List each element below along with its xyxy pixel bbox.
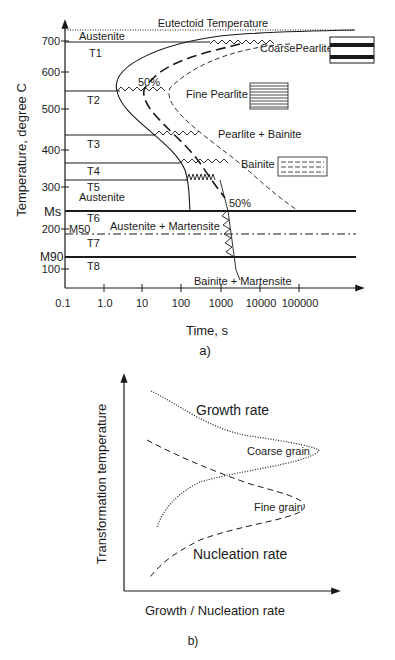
- t7-label: T7: [87, 237, 100, 249]
- austenite-mid-label: Austenite: [79, 191, 125, 203]
- m90-axis-label: M90: [40, 250, 64, 264]
- eutectoid-label: Eutectoid Temperature: [158, 17, 268, 29]
- y-tick-300: 300: [42, 181, 60, 193]
- y-tick-200: 200: [42, 223, 60, 235]
- x-tick-10000: 10000: [246, 297, 277, 309]
- isotherm-lines: [65, 42, 210, 180]
- y-tick-600: 600: [42, 66, 60, 78]
- fifty-percent-label-a: 50%: [138, 76, 160, 88]
- ms-axis-label: Ms: [44, 204, 62, 219]
- y-tick-100: 100: [42, 263, 60, 275]
- y-tick-700: 700: [42, 35, 60, 47]
- panel-label-a: a): [199, 343, 211, 358]
- t2-label: T2: [87, 94, 100, 106]
- y-tick-400: 400: [42, 144, 60, 156]
- y-tick-500: 500: [42, 103, 60, 115]
- pearlite-bainite-label: Pearlite + Bainite: [218, 128, 301, 140]
- x-axis-label-b: Growth / Nucleation rate: [145, 603, 285, 618]
- fine-pearlite-icon: [250, 83, 288, 109]
- austenite-martensite-label: Austenite + Martensite: [110, 220, 220, 232]
- coarse-pearlite-icon: [330, 37, 374, 63]
- x-tick-0.1: 0.1: [55, 297, 70, 309]
- fine-grain-label: Fine grain: [254, 501, 303, 513]
- x-tick-100000: 100000: [282, 297, 319, 309]
- t3-label: T3: [87, 138, 100, 150]
- x-axis-label-a: Time, s: [186, 323, 229, 338]
- fine-pearlite-label: Fine Pearlite: [186, 88, 248, 100]
- fifty-percent-curve: [144, 44, 240, 198]
- panel-label-b: b): [188, 634, 199, 648]
- figure-canvas: 700 600 500 400 300 200 100 Ms M90 0.1 1…: [0, 0, 395, 660]
- growth-rate-label: Growth rate: [196, 402, 269, 418]
- austenite-top-label: Austenite: [79, 30, 125, 42]
- start-curve: [116, 30, 355, 211]
- x-tick-1000: 1000: [209, 297, 233, 309]
- panel-a-ttt-diagram: 700 600 500 400 300 200 100 Ms M90 0.1 1…: [14, 17, 374, 358]
- x-tick-10: 10: [136, 297, 148, 309]
- bainite-icon: [278, 157, 327, 176]
- coarse-pearlite-label: CoarsePearlite: [260, 42, 333, 54]
- y-axis-label-b: Transformation temperature: [94, 404, 109, 565]
- m50-label: M50: [69, 223, 90, 235]
- nucleation-rate-label: Nucleation rate: [193, 546, 287, 562]
- t1-label: T1: [89, 47, 102, 59]
- panel-b-rate-diagram: Growth rate Coarse grain Fine grain Nucl…: [94, 378, 336, 648]
- coarse-grain-label: Coarse grain: [247, 445, 310, 457]
- bainite-label: Bainite: [241, 158, 275, 170]
- t4-label: T4: [87, 165, 100, 177]
- x-tick-100: 100: [172, 297, 190, 309]
- y-axis-label-a: Temperature, degree C: [14, 83, 29, 217]
- x-tick-1.0: 1.0: [97, 297, 112, 309]
- fifty-percent-label-b: 50%: [229, 197, 251, 209]
- t8-label: T8: [87, 260, 100, 272]
- bainite-martensite-label: Bainite + Martensite: [194, 275, 292, 287]
